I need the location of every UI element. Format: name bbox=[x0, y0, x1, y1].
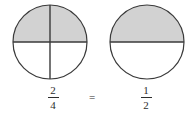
left-fraction-bar bbox=[48, 97, 59, 98]
right-fraction-numerator: 1 bbox=[129, 85, 163, 96]
equivalent-fractions-figure: 2 4 = 1 2 bbox=[0, 0, 196, 114]
equals-sign: = bbox=[83, 92, 101, 103]
right-fraction-bar bbox=[141, 97, 152, 98]
left-fraction-label: 2 4 bbox=[36, 85, 70, 111]
right-circle-model bbox=[110, 5, 184, 79]
left-fraction-numerator: 2 bbox=[36, 85, 70, 96]
right-circle-shaded-top-half bbox=[110, 5, 184, 42]
right-fraction-label: 1 2 bbox=[129, 85, 163, 111]
right-fraction-denominator: 2 bbox=[129, 100, 163, 111]
left-circle-model bbox=[13, 5, 87, 79]
right-circle-unshaded-bottom-half bbox=[110, 42, 184, 79]
left-fraction-denominator: 4 bbox=[36, 100, 70, 111]
